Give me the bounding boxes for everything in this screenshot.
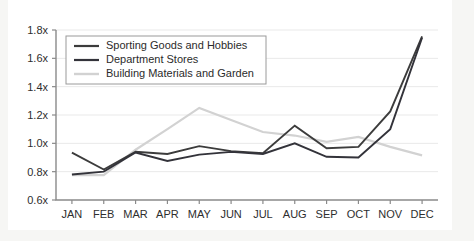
x-tick-label: SEP (316, 208, 338, 220)
x-axis-tick-labels: JANFEBMARAPRMAYJUNJULAUGSEPOCTNOVDEC (62, 208, 434, 220)
legend-label-1[interactable]: Sporting Goods and Hobbies (106, 39, 248, 51)
y-axis-tick-labels: 1.8x1.6x1.4x1.2x1.0x0.8x0.6x (27, 24, 48, 206)
x-tick-label: MAR (123, 208, 148, 220)
y-tick-label: 1.0x (27, 137, 48, 149)
x-tick-label: MAY (188, 208, 212, 220)
legend-label-2[interactable]: Department Stores (106, 53, 199, 65)
y-tick-label: 1.4x (27, 81, 48, 93)
series-line-3[interactable] (72, 108, 422, 175)
x-tick-label: NOV (378, 208, 403, 220)
x-tick-label: JUL (253, 208, 273, 220)
line-chart[interactable]: 1.8x1.6x1.4x1.2x1.0x0.8x0.6x JANFEBMARAP… (8, 0, 452, 230)
page-root: 1.8x1.6x1.4x1.2x1.0x0.8x0.6x JANFEBMARAP… (0, 0, 474, 241)
legend-label-3[interactable]: Building Materials and Garden (106, 67, 254, 79)
x-tick-label: AUG (283, 208, 307, 220)
x-tick-label: APR (156, 208, 179, 220)
x-tick-label: JUN (220, 208, 241, 220)
x-tick-label: JAN (62, 208, 83, 220)
x-tick-label: FEB (93, 208, 114, 220)
chart-legend[interactable]: Sporting Goods and HobbiesDepartment Sto… (66, 36, 266, 84)
chart-card: 1.8x1.6x1.4x1.2x1.0x0.8x0.6x JANFEBMARAP… (8, 0, 452, 230)
y-tick-label: 0.6x (27, 194, 48, 206)
x-tick-label: OCT (347, 208, 371, 220)
x-tick-label: DEC (410, 208, 433, 220)
y-tick-label: 1.6x (27, 52, 48, 64)
y-tick-label: 1.2x (27, 109, 48, 121)
y-tick-label: 1.8x (27, 24, 48, 36)
y-tick-label: 0.8x (27, 166, 48, 178)
